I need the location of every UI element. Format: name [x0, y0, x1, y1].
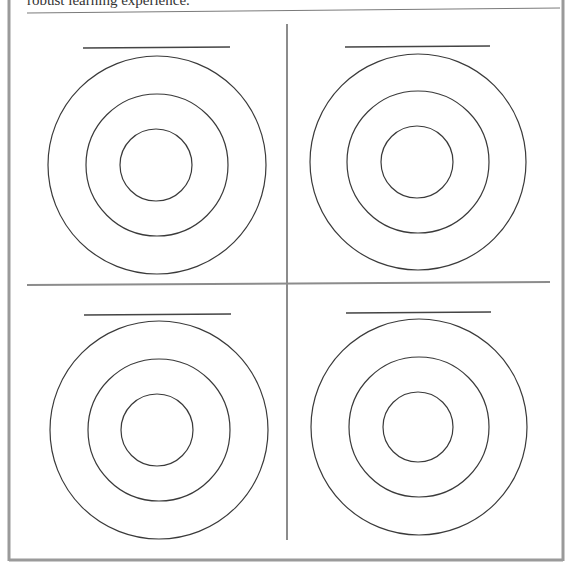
- target-worksheet: [0, 0, 580, 566]
- inner-ring: [381, 126, 453, 198]
- name-line-top-left[interactable]: [83, 47, 230, 48]
- horizontal-divider: [27, 282, 550, 285]
- middle-ring: [347, 91, 489, 233]
- inner-ring: [120, 129, 192, 201]
- name-line-top-right[interactable]: [345, 46, 490, 47]
- inner-ring: [383, 392, 453, 462]
- target-bottom-right: [311, 312, 527, 535]
- outer-ring: [50, 321, 268, 539]
- outer-ring: [48, 56, 266, 274]
- top-rule: [27, 8, 560, 13]
- middle-ring: [349, 357, 489, 497]
- inner-ring: [121, 394, 193, 466]
- target-top-left: [48, 47, 266, 274]
- middle-ring: [88, 359, 230, 501]
- target-top-right: [310, 46, 526, 270]
- outer-ring: [310, 54, 526, 270]
- outer-ring: [311, 319, 527, 535]
- name-line-bottom-right[interactable]: [346, 312, 491, 313]
- name-line-bottom-left[interactable]: [84, 314, 231, 315]
- target-bottom-left: [50, 314, 268, 539]
- middle-ring: [86, 94, 228, 236]
